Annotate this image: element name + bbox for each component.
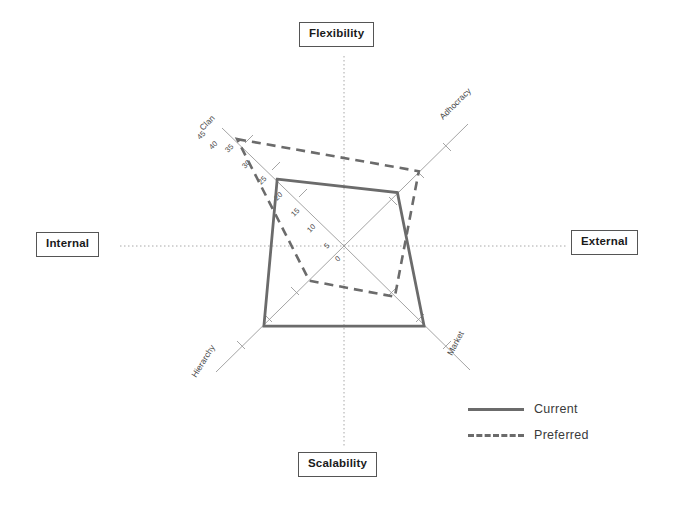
legend-swatch-preferred-icon bbox=[468, 430, 524, 440]
radar-chart: 0 5 10 15 20 25 30 35 40 45 Clan Adhocra… bbox=[0, 0, 674, 507]
series-polygon-preferred bbox=[237, 139, 419, 297]
axis-label-hierarchy: Hierarchy bbox=[189, 342, 217, 379]
quadrant-label-flexibility: Flexibility bbox=[299, 22, 374, 47]
legend-label-preferred: Preferred bbox=[534, 428, 589, 442]
legend-swatch-current-icon bbox=[468, 404, 524, 414]
axis-line-adhocracy bbox=[344, 124, 468, 246]
quadrant-label-scalability: Scalability bbox=[298, 452, 377, 477]
chart-legend: Current Preferred bbox=[468, 396, 643, 448]
legend-item-current: Current bbox=[468, 396, 643, 422]
legend-label-current: Current bbox=[534, 402, 578, 416]
radial-tick-labels: 0 5 10 15 20 25 30 35 40 45 bbox=[195, 129, 342, 263]
axis-label-clan: Clan bbox=[197, 113, 217, 133]
quadrant-label-external: External bbox=[571, 230, 638, 255]
tick-label-5: 5 bbox=[322, 241, 331, 250]
tick-label-15: 15 bbox=[289, 206, 301, 218]
legend-item-preferred: Preferred bbox=[468, 422, 643, 448]
axis-line-hierarchy bbox=[216, 246, 344, 372]
tick-label-35: 35 bbox=[223, 142, 235, 154]
axis-label-adhocracy: Adhocracy bbox=[437, 85, 473, 121]
axis-label-market: Market bbox=[445, 329, 466, 357]
tick-label-0: 0 bbox=[333, 254, 342, 263]
quadrant-label-internal: Internal bbox=[36, 232, 99, 257]
tick-label-10: 10 bbox=[305, 222, 317, 234]
tick-label-40: 40 bbox=[207, 139, 219, 151]
